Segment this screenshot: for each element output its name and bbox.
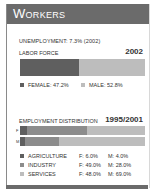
legend-industry: INDUSTRY [20,162,56,168]
legend-female: FEMALE: 47.2% [20,82,69,88]
legend-industry-label: INDUSTRY [28,162,56,168]
distribution-years: 1995/2001 [105,115,143,124]
bar-tag-m: M [16,139,19,144]
agriculture-swatch-icon [20,154,24,158]
labor-force-bar [20,59,145,76]
industry-m-value: M: 28.0% [108,162,131,168]
legend-services: SERVICES [20,171,56,177]
labor-force-label: LABOR FORCE [19,50,58,56]
legend-male: MALE: 52.8% [81,82,123,88]
legend-agriculture: AGRICULTURE [20,153,67,159]
unemployment-text: UNEMPLOYMENT: 7.3% (2002) [19,38,100,44]
female-swatch-icon [20,83,24,87]
panel-title: Workers [13,6,65,22]
industry-segment-f [27,126,87,135]
legend-services-label: SERVICES [28,171,56,177]
legend-female-label: FEMALE: 47.2% [28,82,69,88]
workers-panel: Workers UNEMPLOYMENT: 7.3% (2002) LABOR … [6,4,150,188]
services-segment-m [59,137,145,146]
legend-agriculture-label: AGRICULTURE [28,153,67,159]
services-m-value: M: 69.0% [108,171,131,177]
agriculture-f-value: F: 6.0% [79,153,98,159]
male-swatch-icon [81,83,85,87]
male-segment [79,59,145,76]
services-f-value: F: 48.0% [79,171,101,177]
industry-swatch-icon [20,163,24,167]
labor-force-year: 2002 [125,47,143,56]
industry-segment-m [25,137,59,146]
distribution-bar-female [20,126,145,135]
agriculture-m-value: M: 4.0% [108,153,128,159]
bar-tag-f: F [16,128,18,133]
panel-header: Workers [7,4,149,24]
legend-male-label: MALE: 52.8% [89,82,123,88]
services-segment-f [87,126,145,135]
industry-f-value: F: 49.0% [79,162,101,168]
services-swatch-icon [20,172,24,176]
agriculture-segment-f [20,126,27,135]
distribution-label: EMPLOYMENT DISTRIBUTION [19,118,98,124]
distribution-bar-male [20,137,145,146]
panel-footer-bar [6,185,148,189]
female-segment [20,59,79,76]
